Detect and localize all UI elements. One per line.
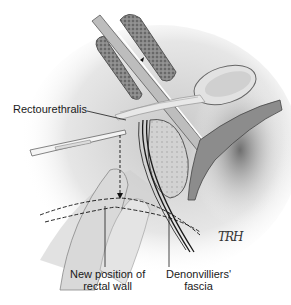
- label-new-position-rectal-wall: New position of rectal wall: [70, 268, 145, 292]
- label-line: Denonvilliers': [166, 268, 231, 280]
- label-line: New position of: [70, 268, 145, 280]
- label-rectourethralis: Rectourethralis: [13, 103, 87, 115]
- anatomical-illustration: [0, 0, 291, 305]
- artist-signature: TRH: [218, 230, 243, 244]
- label-line: rectal wall: [70, 280, 145, 292]
- label-denonvilliers-fascia: Denonvilliers' fascia: [166, 268, 231, 292]
- label-line: fascia: [166, 280, 231, 292]
